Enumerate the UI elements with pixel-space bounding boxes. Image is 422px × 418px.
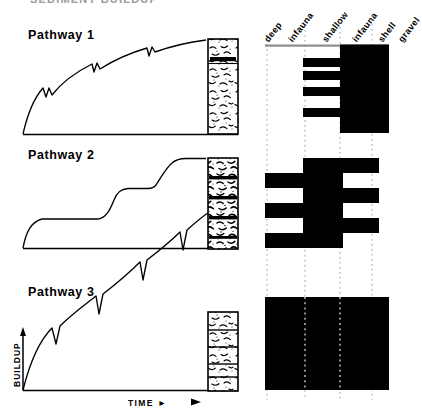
pathway-1-curve: [23, 40, 206, 134]
pathway-2-curve: [23, 159, 206, 249]
bar-shell-gravel: [340, 46, 389, 133]
bar-shallow-shell: [303, 218, 379, 233]
bar-shallow-shell: [303, 158, 379, 173]
bar-shallow-infauna: [303, 58, 340, 67]
pathway-3-occurrence-bars: [265, 297, 389, 390]
pathway-2-occurrence-bars: [265, 158, 379, 248]
bar-shallow-shell: [303, 188, 379, 203]
pathway-3-core-column: [208, 312, 238, 391]
bar-shallow-infauna: [303, 108, 340, 117]
bar-deep-shallow: [265, 233, 343, 248]
bar-all-categories: [265, 297, 389, 390]
bar-deep-shallow: [265, 203, 343, 218]
bar-deep-shallow: [265, 173, 343, 188]
pathway-2-core-column: [208, 158, 238, 249]
pathway-1-plot: [23, 39, 389, 135]
pathway-1-occurrence-bars: [303, 46, 389, 133]
bar-shallow-infauna: [303, 71, 340, 80]
pathway-1-core-column: [208, 39, 238, 134]
bar-shallow-infauna: [303, 87, 340, 96]
pathway-2-plot: [23, 158, 379, 249]
pathway-3-curve: [23, 213, 208, 390]
